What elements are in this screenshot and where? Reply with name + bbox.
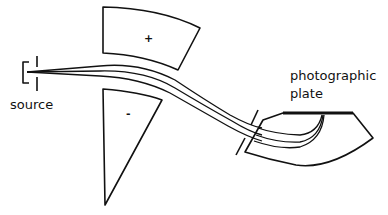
plate-label-line1: photographic [290, 68, 376, 83]
plus-sign: + [144, 32, 153, 45]
negative-plate [103, 89, 162, 205]
ion-beams [27, 65, 262, 141]
source-bracket [23, 56, 37, 91]
plate-label-line2: plate [290, 86, 323, 101]
minus-sign: - [126, 107, 131, 120]
source-label: source [10, 97, 53, 112]
mass-spectrograph-diagram: source + - photographic plate [0, 0, 388, 215]
